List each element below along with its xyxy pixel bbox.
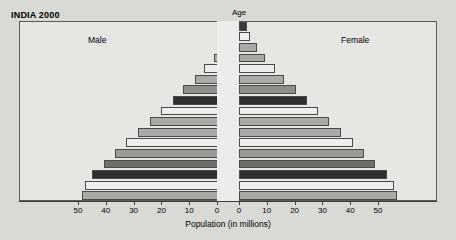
x-axis-tick-label: 40 <box>94 206 118 215</box>
x-axis-tick <box>239 201 240 205</box>
bar-female <box>239 107 318 116</box>
age-label-column <box>217 21 239 201</box>
bar-female <box>239 64 275 73</box>
bar-male <box>82 191 239 200</box>
bar-female <box>239 32 250 41</box>
x-axis-tick <box>350 201 351 205</box>
x-axis-tick-label: 50 <box>66 206 90 215</box>
x-axis-tick-label: 30 <box>310 206 334 215</box>
x-axis-tick-label: 10 <box>255 206 279 215</box>
x-axis-tick <box>78 201 79 205</box>
bar-female <box>239 54 265 63</box>
x-axis-tick <box>267 201 268 205</box>
x-axis-tick-label: 20 <box>283 206 307 215</box>
series-label-male: Male <box>88 35 106 45</box>
x-axis-tick <box>322 201 323 205</box>
population-pyramid-chart: INDIA 2000 Age Male Female 80+75-7970-74… <box>0 0 456 240</box>
x-axis-tick-label: 10 <box>177 206 201 215</box>
x-axis-tick <box>295 201 296 205</box>
x-axis-title: Population (in millions) <box>0 219 456 229</box>
x-axis-tick-label: 0 <box>205 206 229 215</box>
bar-female <box>239 170 387 179</box>
x-axis-tick <box>378 201 379 205</box>
bar-female <box>239 85 296 94</box>
bar-female <box>239 117 329 126</box>
x-axis-tick-label: 20 <box>149 206 173 215</box>
bar-female <box>239 191 397 200</box>
bar-male <box>85 181 239 190</box>
age-axis-header: Age <box>217 8 261 17</box>
bar-female <box>239 138 353 147</box>
series-label-female: Female <box>341 35 369 45</box>
chart-title: INDIA 2000 <box>11 10 60 20</box>
bar-female <box>239 96 307 105</box>
bar-female <box>239 43 257 52</box>
x-axis-tick <box>217 201 218 205</box>
x-axis-tick <box>189 201 190 205</box>
x-axis-tick <box>106 201 107 205</box>
bar-female <box>239 181 394 190</box>
x-axis-tick <box>161 201 162 205</box>
bar-female <box>239 75 284 84</box>
x-axis-line <box>19 201 437 202</box>
x-axis-tick <box>134 201 135 205</box>
x-axis-tick-label: 40 <box>338 206 362 215</box>
bar-female <box>239 160 375 169</box>
bar-female <box>239 22 247 31</box>
bar-female <box>239 149 364 158</box>
x-axis-tick-label: 50 <box>366 206 390 215</box>
x-axis-tick-label: 0 <box>227 206 251 215</box>
bar-female <box>239 128 341 137</box>
x-axis-tick-label: 30 <box>122 206 146 215</box>
